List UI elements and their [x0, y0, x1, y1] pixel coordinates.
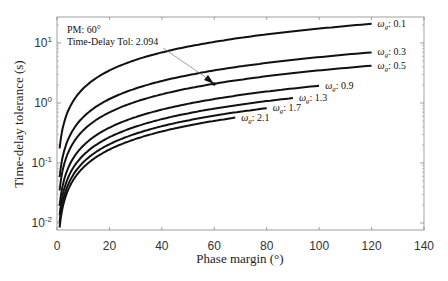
curve-label: ωg: 1.7 — [273, 102, 301, 115]
x-tick-label: 40 — [155, 239, 169, 253]
annotation-tol: Time-Delay Tol: 2.094 — [67, 36, 158, 47]
x-tick-label: 140 — [414, 239, 434, 253]
y-tick-label: 100 — [34, 95, 52, 110]
y-tick-label: 10-2 — [32, 215, 53, 230]
x-tick-label: 120 — [362, 239, 382, 253]
annotation-pm: PM: 60° — [67, 24, 101, 35]
y-axis: 10-210-1100101 — [32, 25, 424, 230]
y-tick-label: 10-1 — [32, 155, 53, 170]
curve-label: ωg: 0.3 — [378, 46, 406, 59]
curves — [60, 24, 372, 228]
curve-line — [60, 108, 267, 222]
curve-line — [60, 86, 320, 206]
y-axis-title: Time-delay tolerance (s) — [11, 60, 26, 187]
curve-label: ωg: 1.3 — [299, 92, 327, 105]
x-tick-label: 100 — [309, 239, 329, 253]
curve-label: ωg: 0.9 — [325, 80, 353, 93]
x-tick-label: 0 — [54, 239, 61, 253]
curve-label: ωg: 2.1 — [241, 112, 269, 125]
y-tick-label: 101 — [34, 35, 52, 50]
curve-line — [60, 118, 236, 228]
curve-label: ωg: 0.5 — [378, 60, 406, 73]
curve-label: ωg: 0.1 — [378, 18, 406, 31]
annotation-arrowhead — [204, 75, 214, 84]
data-marker — [212, 82, 216, 86]
chart: 020406080100120140 10-210-1100101 ωg: 0.… — [0, 0, 448, 281]
plot-frame — [57, 17, 424, 230]
x-axis-title: Phase margin (°) — [196, 251, 283, 266]
x-tick-label: 20 — [103, 239, 117, 253]
